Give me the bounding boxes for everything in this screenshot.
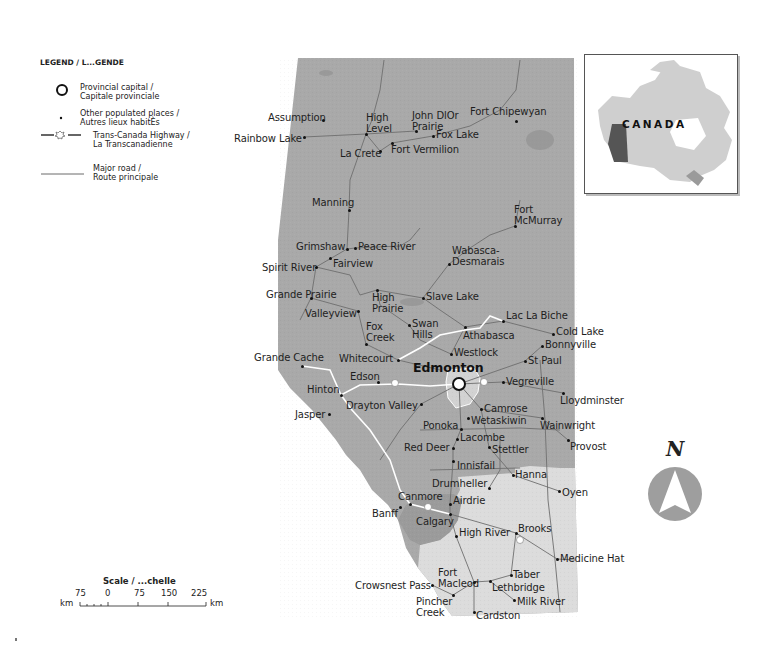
place-label: Manning: [312, 197, 354, 208]
place-label: Fairview: [333, 258, 373, 269]
place-label: Wabasca- Desmarais: [452, 245, 504, 267]
place-label: Calgary: [416, 516, 454, 527]
populated-place-dot-icon: [408, 324, 411, 327]
place-label: High River: [459, 527, 510, 538]
populated-place-dot-icon: [328, 413, 331, 416]
populated-place-dot-icon: [452, 460, 455, 463]
populated-place-dot-icon: [480, 408, 483, 411]
scale-tick: 225: [191, 588, 207, 598]
place-label: Fort Macleod: [438, 567, 479, 589]
place-label: Grande Prairie: [266, 289, 337, 300]
inset-country-label: CANADA: [622, 118, 687, 130]
populated-place-dot-icon: [455, 535, 458, 538]
populated-place-dot-icon: [452, 447, 455, 450]
maple-leaf-icon: [55, 130, 67, 140]
place-label: Canmore: [398, 491, 443, 502]
place-label: St Paul: [528, 355, 562, 366]
place-label: Innisfail: [457, 460, 495, 471]
populated-place-dot-icon: [464, 326, 467, 329]
populated-place-dot-icon: [456, 438, 459, 441]
place-label: Grande Cache: [254, 352, 324, 363]
place-label: Airdrie: [453, 495, 485, 506]
place-label: Drumheller: [432, 478, 487, 489]
compass-north-label: N: [666, 437, 684, 461]
scale-tick: 75: [134, 588, 145, 598]
populated-place-dot-icon: [431, 584, 434, 587]
populated-place-dot-icon: [397, 359, 400, 362]
populated-place-dot-icon: [357, 310, 360, 313]
place-label: Milk River: [517, 596, 565, 607]
populated-place-dot-icon: [467, 417, 470, 420]
populated-place-dot-icon: [488, 487, 491, 490]
populated-place-dot-icon: [450, 353, 453, 356]
populated-place-dot-icon: [301, 365, 304, 368]
place-label: Crowsnest Pass: [355, 580, 431, 591]
place-label: Edson: [350, 371, 380, 382]
populated-place-dot-icon: [541, 345, 544, 348]
place-label: Brooks: [518, 523, 551, 534]
capital-label-edmonton: Edmonton: [413, 361, 484, 374]
legend-title: LEGEND / L...GENDE: [40, 58, 230, 67]
place-label: Valleyview: [305, 308, 357, 319]
populated-place-icon: [59, 116, 63, 120]
legend-populated-places-label: Other populated places / Autres lieux ha…: [80, 109, 179, 127]
place-label: Pincher Creek: [416, 596, 452, 618]
place-label: Hinton: [307, 384, 339, 395]
place-label: Peace River: [358, 241, 416, 252]
place-label: Westlock: [454, 347, 498, 358]
place-label: Fort Chipewyan: [470, 106, 547, 117]
scale-tick: 150: [161, 588, 177, 598]
place-label: Taber: [513, 569, 540, 580]
populated-place-dot-icon: [348, 209, 351, 212]
place-label: Assumption: [268, 112, 326, 123]
scan-artifact: [15, 638, 17, 641]
place-label: Camrose: [484, 403, 528, 414]
place-label: Slave Lake: [426, 291, 479, 302]
place-label: Lac La Biche: [506, 310, 568, 321]
populated-place-dot-icon: [552, 333, 555, 336]
populated-place-dot-icon: [420, 403, 423, 406]
place-label: Red Deer: [404, 442, 450, 453]
place-label: Cold Lake: [556, 326, 604, 337]
populated-place-dot-icon: [448, 263, 451, 266]
populated-place-dot-icon: [558, 490, 561, 493]
place-label: Grimshaw: [296, 241, 345, 252]
place-label: Lethbridge: [492, 582, 545, 593]
place-label: Whitecourt: [339, 353, 393, 364]
scale-unit-left: km: [60, 598, 73, 608]
place-label: High Level: [366, 112, 392, 134]
populated-place-dot-icon: [513, 599, 516, 602]
place-label: Oyen: [562, 487, 588, 498]
populated-place-dot-icon: [422, 297, 425, 300]
populated-place-dot-icon: [524, 360, 527, 363]
north-arrow-icon: [648, 467, 702, 521]
populated-place-dot-icon: [515, 120, 518, 123]
provincial-capital-marker: [452, 377, 466, 391]
populated-place-dot-icon: [556, 558, 559, 561]
populated-place-dot-icon: [303, 136, 306, 139]
populated-place-dot-icon: [502, 381, 505, 384]
populated-place-dot-icon: [502, 320, 505, 323]
place-label: Fox Creek: [366, 321, 394, 343]
populated-place-dot-icon: [354, 247, 357, 250]
place-label: Cardston: [476, 610, 520, 621]
place-label: Wetaskiwin: [471, 415, 527, 426]
place-label: La Crete: [340, 148, 381, 159]
place-label: Swan Hills: [412, 318, 439, 340]
scale-title: Scale / ...chelle: [103, 576, 176, 586]
legend-trans-canada-label: Trans-Canada Highway / La Transcanadienn…: [93, 131, 190, 149]
place-label: Vegreville: [506, 376, 554, 387]
legend-provincial-capital-label: Provincial capital / Capitale provincial…: [80, 83, 159, 101]
populated-place-dot-icon: [340, 394, 343, 397]
place-label: Lloydminster: [560, 395, 624, 406]
populated-place-dot-icon: [329, 257, 332, 260]
scale-tick: 0: [105, 588, 110, 598]
place-label: Drayton Valley: [346, 400, 418, 411]
populated-place-dot-icon: [409, 503, 412, 506]
populated-place-dot-icon: [488, 446, 491, 449]
legend-major-road-label: Major road / Route principale: [93, 164, 158, 182]
populated-place-dot-icon: [346, 248, 349, 251]
place-label: Spirit River: [262, 262, 316, 273]
populated-place-dot-icon: [449, 503, 452, 506]
place-label: Hanna: [515, 469, 547, 480]
